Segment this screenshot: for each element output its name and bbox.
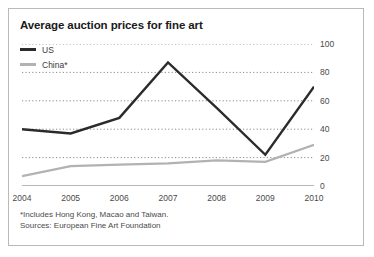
footnote-includes: *Includes Hong Kong, Macao and Taiwan. [20, 209, 168, 220]
data-series-layer [22, 62, 314, 176]
x-axis-tick-label: 2010 [297, 193, 331, 203]
series-line-us [22, 62, 314, 154]
x-axis-tick-label: 2006 [102, 193, 136, 203]
plot-area [22, 44, 314, 186]
y-axis-tick-label: 80 [320, 67, 329, 77]
y-axis-tick-label: 60 [320, 96, 329, 106]
y-axis-tick-label: 20 [320, 153, 329, 163]
chart-figure: Average auction prices for fine art US C… [0, 0, 374, 257]
plot-canvas [22, 44, 314, 186]
y-axis-tick-label: 0 [320, 181, 325, 191]
y-axis-tick-label: 100 [320, 39, 334, 49]
y-axis-tick-label: 40 [320, 124, 329, 134]
x-axis-tick-label: 2004 [5, 193, 39, 203]
x-axis-tick-label: 2008 [200, 193, 234, 203]
x-axis-tick-label: 2007 [151, 193, 185, 203]
x-axis-tick-label: 2005 [54, 193, 88, 203]
chart-title: Average auction prices for fine art [20, 19, 203, 31]
x-axis-tick-label: 2009 [248, 193, 282, 203]
footnotes: *Includes Hong Kong, Macao and Taiwan. S… [20, 209, 168, 231]
footnote-sources: Sources: European Fine Art Foundation [20, 220, 168, 231]
